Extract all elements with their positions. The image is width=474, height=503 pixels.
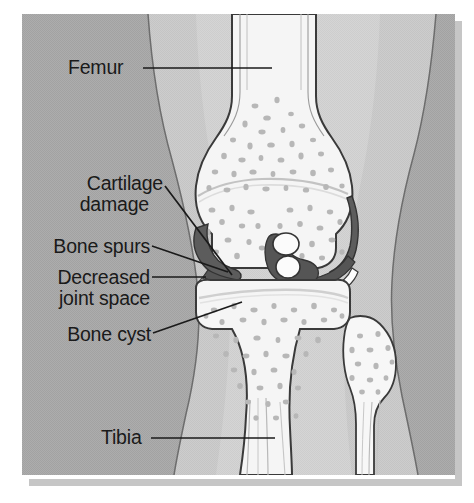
label-cartilage-damage-line-1: Cartilage — [0, 173, 163, 194]
label-decreased-joint-space: Decreased joint space — [0, 267, 150, 309]
label-bone-cyst-line-1: Bone cyst — [67, 323, 151, 345]
label-cartilage-damage-line-2: damage — [0, 194, 163, 215]
label-decreased-joint-space-line-2: joint space — [0, 288, 150, 309]
label-bone-cyst: Bone cyst — [0, 324, 151, 345]
label-femur: Femur — [68, 57, 123, 78]
label-tibia: Tibia — [101, 427, 142, 448]
label-femur-line-1: Femur — [68, 56, 123, 78]
label-tibia-line-1: Tibia — [101, 426, 142, 448]
label-decreased-joint-space-line-1: Decreased — [0, 267, 150, 288]
label-cartilage-damage: Cartilage damage — [0, 173, 163, 215]
label-bone-spurs-line-1: Bone spurs — [53, 235, 150, 257]
label-bone-spurs: Bone spurs — [0, 236, 150, 257]
